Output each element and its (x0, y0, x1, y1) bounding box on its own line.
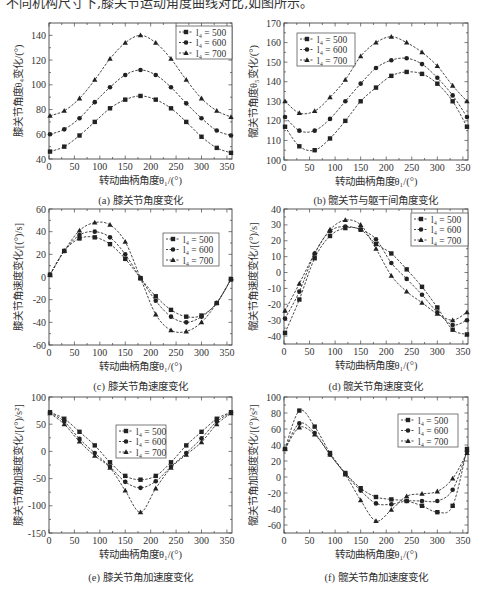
x-tick-label: 50 (69, 347, 79, 358)
legend-entry: l₄ = 600 (317, 45, 348, 55)
y-axis-label: 膝关节角加速度变化/[(°)/s²] (12, 404, 25, 525)
y-tick-label: 0 (276, 472, 281, 483)
y-tick-label: 60 (36, 204, 46, 215)
x-tick-label: 100 (328, 162, 343, 173)
legend: l₄ = 500l₄ = 600l₄ = 700 (411, 213, 468, 246)
x-tick-label: 50 (305, 346, 315, 357)
x-tick-label: 100 (328, 535, 343, 546)
x-tick-label: 300 (194, 347, 209, 358)
x-tick-label: 100 (92, 535, 107, 546)
x-tick-label: 200 (379, 162, 394, 173)
y-axis-label: 髋关节角加速度变化/[(°)/s²] (247, 404, 260, 525)
x-tick-label: 100 (92, 347, 107, 358)
y-tick-label: -40 (268, 504, 281, 515)
legend-entry: l₄ = 600 (136, 437, 167, 447)
x-tick-label: 150 (118, 161, 133, 172)
y-tick-label: 140 (266, 76, 281, 87)
legend-entry: l₄ = 600 (431, 225, 462, 235)
x-tick-label: 350 (455, 346, 470, 357)
x-tick-label: 0 (47, 535, 52, 546)
y-tick-label: -50 (33, 473, 46, 484)
x-tick-label: 100 (328, 346, 343, 357)
x-tick-label: 250 (169, 161, 184, 172)
x-tick-label: 250 (169, 535, 184, 546)
y-tick-label: -100 (28, 500, 46, 511)
legend: l₄ = 500l₄ = 600l₄ = 700 (176, 26, 232, 59)
y-tick-label: 20 (271, 456, 281, 467)
y-tick-label: 0 (41, 446, 46, 457)
series-1 (283, 70, 469, 153)
x-axis-label: 转动曲柄角度θ₁/(°) (99, 360, 182, 373)
x-tick-label: 300 (430, 346, 445, 357)
y-tick-label: 110 (266, 135, 281, 146)
x-axis-label: 转动曲柄角度θ₁/(°) (335, 175, 418, 188)
y-tick-label: 50 (36, 419, 46, 430)
x-tick-label: 200 (143, 347, 158, 358)
y-tick-label: 100 (31, 79, 46, 90)
y-tick-label: 170 (266, 18, 281, 29)
legend-entry: l₄ = 600 (196, 38, 227, 48)
panel-caption: (f) 髋关节角加速度变化 (324, 571, 428, 584)
legend-entry: l₄ = 700 (418, 437, 449, 447)
x-tick-label: 350 (219, 347, 234, 358)
y-tick-label: 100 (266, 155, 281, 166)
legend: l₄ = 500l₄ = 600l₄ = 700 (398, 414, 458, 447)
legend-entry: l₄ = 700 (196, 49, 227, 59)
chart-panel-a: 050100150200250300350406080100120140l₄ =… (12, 23, 234, 207)
x-tick-label: 0 (282, 535, 287, 546)
x-tick-label: 150 (353, 535, 368, 546)
legend-entry: l₄ = 500 (418, 416, 449, 426)
x-axis-label: 转动曲柄角度θ₁/(°) (335, 548, 418, 561)
legend-entry: l₄ = 700 (183, 256, 214, 266)
x-tick-label: 50 (305, 162, 315, 173)
legend-entry: l₄ = 500 (317, 35, 348, 45)
x-tick-label: 200 (143, 161, 158, 172)
x-tick-label: 300 (430, 535, 445, 546)
x-tick-label: 250 (404, 346, 419, 357)
y-tick-label: -60 (268, 520, 281, 531)
legend-entry: l₄ = 700 (136, 448, 167, 458)
y-tick-label: 40 (36, 154, 46, 165)
y-tick-label: -40 (33, 317, 46, 328)
x-axis-label: 转动曲柄角度θ₁/(°) (99, 174, 182, 187)
y-tick-label: 120 (31, 55, 46, 66)
x-tick-label: 50 (69, 161, 79, 172)
chart-panel-c: 050100150200250300350-60-40-200204060l₄ … (12, 204, 234, 394)
x-axis-label: 转动曲柄角度θ₁/(°) (335, 359, 418, 372)
legend-entry: l₄ = 600 (418, 426, 449, 436)
x-tick-label: 0 (282, 346, 287, 357)
x-tick-label: 50 (305, 535, 315, 546)
y-tick-label: 0 (276, 267, 281, 278)
x-tick-label: 0 (47, 161, 52, 172)
y-tick-label: -20 (268, 488, 281, 499)
panel-caption: (a) 膝关节角度变化 (98, 194, 183, 207)
x-tick-label: 150 (118, 347, 133, 358)
y-tick-label: -150 (28, 528, 46, 539)
x-tick-label: 350 (219, 161, 234, 172)
x-tick-label: 300 (194, 161, 209, 172)
x-tick-label: 200 (379, 346, 394, 357)
legend-entry: l₄ = 500 (183, 235, 214, 245)
y-tick-label: 40 (36, 226, 46, 237)
y-axis-label: 膝关节角度θ₄变化/(°) (12, 44, 25, 137)
x-tick-label: 250 (404, 162, 419, 173)
y-tick-label: -40 (268, 331, 281, 342)
legend: l₄ = 500l₄ = 600l₄ = 700 (116, 425, 167, 458)
x-tick-label: 300 (430, 162, 445, 173)
x-tick-label: 0 (47, 347, 52, 358)
y-tick-label: 100 (31, 392, 46, 403)
legend: l₄ = 500l₄ = 600l₄ = 700 (297, 33, 355, 66)
y-tick-label: 80 (271, 408, 281, 419)
series-1 (48, 94, 233, 155)
y-tick-label: 30 (271, 219, 281, 230)
chart-panel-b: 0501001502002503003501001101201301401501… (247, 18, 470, 208)
chart-panel-e: 050100150200250300350-150-100-50050100l₄… (12, 392, 234, 585)
x-tick-label: 250 (404, 535, 419, 546)
y-tick-label: 60 (36, 129, 46, 140)
x-tick-label: 350 (219, 535, 234, 546)
y-tick-label: 40 (271, 440, 281, 451)
y-tick-label: 20 (271, 235, 281, 246)
legend-entry: l₄ = 500 (136, 427, 167, 437)
y-tick-label: 60 (271, 424, 281, 435)
y-axis-label: 髋关节角速度变化/[(°)/s] (247, 222, 260, 330)
